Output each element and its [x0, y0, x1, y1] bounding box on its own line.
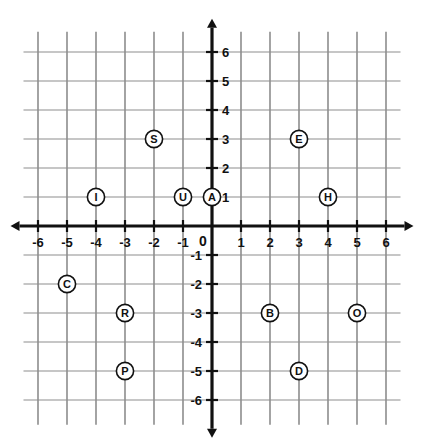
point-label: D [295, 365, 303, 377]
point-label: C [63, 278, 71, 290]
plotted-point-s[interactable]: S [145, 130, 162, 147]
x-axis-tick-label: 6 [382, 235, 389, 250]
plotted-point-e[interactable]: E [290, 130, 307, 147]
x-axis-tick-label: -5 [61, 235, 73, 250]
point-label: B [266, 307, 274, 319]
x-axis-tick-label: -6 [32, 235, 44, 250]
x-axis-tick-label: -3 [119, 235, 131, 250]
point-label: O [353, 307, 362, 319]
point-label: A [208, 191, 216, 203]
x-axis-tick-label: 3 [295, 235, 302, 250]
x-axis-arrow-right [405, 221, 414, 231]
origin-label: 0 [199, 233, 207, 249]
x-axis-tick-label: -4 [90, 235, 102, 250]
y-axis-tick-label: 2 [222, 161, 229, 176]
x-axis-tick-label: 2 [266, 235, 273, 250]
x-axis-tick-label: -2 [148, 235, 160, 250]
coordinate-plane-figure: -6-5-4-3-2-1123456654321-1-2-3-4-5-60 SE… [0, 0, 424, 440]
plotted-point-a[interactable]: A [203, 188, 220, 205]
point-label: I [94, 191, 97, 203]
y-axis-tick-label: 1 [222, 190, 229, 205]
y-axis-tick-label: -3 [190, 306, 202, 321]
plotted-point-r[interactable]: R [116, 304, 133, 321]
y-axis-arrow-up [207, 19, 217, 28]
y-axis-tick-label: 4 [222, 103, 230, 118]
point-label: S [150, 133, 157, 145]
plotted-point-h[interactable]: H [319, 188, 336, 205]
point-label: H [324, 191, 332, 203]
y-axis-tick-label: -4 [190, 335, 202, 350]
y-axis-tick-label: 5 [222, 74, 229, 89]
y-axis-tick-label: -1 [190, 248, 202, 263]
plotted-point-o[interactable]: O [348, 304, 365, 321]
plotted-point-b[interactable]: B [261, 304, 278, 321]
y-axis-tick-label: -2 [190, 277, 202, 292]
y-axis-tick-label: 3 [222, 132, 229, 147]
y-axis-arrow-down [207, 429, 217, 438]
point-label: P [121, 365, 128, 377]
point-label: E [295, 133, 302, 145]
point-label: R [121, 307, 129, 319]
plotted-point-d[interactable]: D [290, 362, 307, 379]
y-axis-tick-label: -6 [190, 393, 202, 408]
x-axis-tick-label: 5 [353, 235, 360, 250]
plotted-point-u[interactable]: U [174, 188, 191, 205]
x-axis-tick-label: 4 [324, 235, 332, 250]
plotted-point-c[interactable]: C [58, 275, 75, 292]
y-axis-tick-label: -5 [190, 364, 202, 379]
x-axis-arrow-left [11, 221, 20, 231]
x-axis-tick-label: -1 [177, 235, 189, 250]
y-axis-tick-label: 6 [222, 45, 229, 60]
plotted-point-i[interactable]: I [87, 188, 104, 205]
coordinate-plane-svg: -6-5-4-3-2-1123456654321-1-2-3-4-5-60 SE… [0, 0, 424, 440]
plotted-point-p[interactable]: P [116, 362, 133, 379]
point-label: U [179, 191, 187, 203]
x-axis-tick-label: 1 [237, 235, 244, 250]
